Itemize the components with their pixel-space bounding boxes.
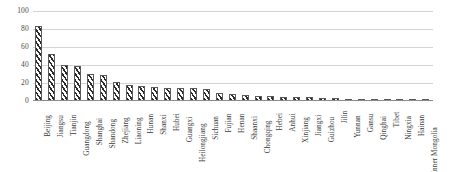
x-axis-label-slot: Xinjiang	[291, 104, 303, 170]
y-axis-tick-label: 60	[21, 43, 29, 51]
bar-slot	[136, 11, 148, 101]
y-axis-tick-label: 0	[25, 97, 29, 105]
bar-slot	[214, 11, 226, 101]
bar-slot	[59, 11, 71, 101]
bar-slot	[149, 11, 161, 101]
x-axis-label-slot: Tianjin	[59, 104, 71, 170]
x-axis-label-slot: Shanxi	[149, 104, 161, 170]
bar-slot	[227, 11, 239, 101]
bar-slot	[343, 11, 355, 101]
x-axis-label-slot: Qinghai	[368, 104, 380, 170]
x-axis-label-slot: Anhui	[278, 104, 290, 170]
y-axis-tick-label: 80	[21, 25, 29, 33]
x-axis-label-slot: Jiangxi	[304, 104, 316, 170]
x-axis-label-slot: Inner Mongolia	[420, 104, 432, 170]
bar-slot	[85, 11, 97, 101]
x-axis-label-slot: Ningxia	[394, 104, 406, 170]
bar-slot	[394, 11, 406, 101]
bar-slot	[201, 11, 213, 101]
x-axis-tick-labels: BeijingJiangsuTianjinGuangdongShanghaiSh…	[33, 104, 433, 170]
bar-slot	[368, 11, 380, 101]
x-axis-label-slot: Hubei	[162, 104, 174, 170]
x-axis-label-slot: Sichuan	[201, 104, 213, 170]
bar-slot	[381, 11, 393, 101]
x-axis-label-slot: Jilin	[330, 104, 342, 170]
bar-slot	[175, 11, 187, 101]
x-axis-label-slot: Gansu	[356, 104, 368, 170]
x-axis-label-slot: Hunan	[136, 104, 148, 170]
x-axis-label-slot: Tibet	[381, 104, 393, 170]
x-axis-label-slot: Guizhou	[317, 104, 329, 170]
x-axis-label-slot: Guangxi	[175, 104, 187, 170]
plot-area	[33, 11, 433, 101]
bar-slot	[356, 11, 368, 101]
x-axis-label-slot: Henan	[227, 104, 239, 170]
bar-slot	[407, 11, 419, 101]
bar-slot	[265, 11, 277, 101]
bar-slot	[123, 11, 135, 101]
bar-slot	[330, 11, 342, 101]
bar-slot	[46, 11, 58, 101]
x-axis-label-slot: Shanghai	[85, 104, 97, 170]
bar-slot	[317, 11, 329, 101]
x-axis-label-slot: Guangdong	[72, 104, 84, 170]
x-axis-label-slot: Shaanxi	[239, 104, 251, 170]
x-axis-label-slot: Liaoning	[123, 104, 135, 170]
bar-slot	[33, 11, 45, 101]
bar-slot	[291, 11, 303, 101]
y-axis-tick-labels: 020406080100	[0, 11, 29, 101]
bar-slot	[304, 11, 316, 101]
x-axis-tick-label: Inner Mongolia	[426, 81, 433, 127]
bar-slot	[239, 11, 251, 101]
bar-slot	[110, 11, 122, 101]
bar-chart: 020406080100 BeijingJiangsuTianjinGuangd…	[0, 0, 452, 172]
x-axis-label-slot: Jiangsu	[46, 104, 58, 170]
x-axis-label-slot: Fujian	[214, 104, 226, 170]
x-axis-label-slot: Shandong	[98, 104, 110, 170]
y-axis-tick-label: 20	[21, 79, 29, 87]
x-axis-tick-label-text: Inner Mongolia	[432, 127, 439, 172]
x-axis-label-slot: Chongqing	[252, 104, 264, 170]
bar-slot	[98, 11, 110, 101]
y-axis-tick-label: 100	[17, 7, 29, 15]
x-axis-label-slot: Zhejiang	[110, 104, 122, 170]
bar-series	[33, 11, 433, 101]
x-axis-label-slot: Hebei	[265, 104, 277, 170]
x-axis-label-slot: Beijing	[33, 104, 45, 170]
bar	[35, 26, 42, 101]
x-axis-label-slot: Heilongjiang	[188, 104, 200, 170]
x-axis-label-slot: Yunnan	[343, 104, 355, 170]
bar-slot	[278, 11, 290, 101]
y-axis-tick-label: 40	[21, 61, 29, 69]
x-axis-label-slot: Hainan	[407, 104, 419, 170]
bar-slot	[162, 11, 174, 101]
